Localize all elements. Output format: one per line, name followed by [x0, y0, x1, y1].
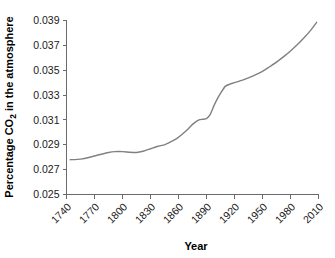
x-axis-tick-label: 1740 [48, 200, 73, 225]
x-axis-tick-label: 2010 [300, 200, 325, 225]
y-axis-tick-label: 0.025 [33, 188, 59, 200]
co2-line-chart: 0.0250.0270.0290.0310.0330.0350.0370.039… [0, 0, 335, 258]
plot-area [70, 22, 316, 159]
x-axis-title: Year [184, 240, 208, 252]
y-axis-tick-label: 0.033 [33, 89, 59, 101]
x-axis-group: 1740177018001830186018901920195019802010 [48, 195, 325, 226]
x-axis-tick-labels: 1740177018001830186018901920195019802010 [48, 200, 325, 225]
y-axis-tick-label: 0.027 [33, 163, 59, 175]
x-axis-tick-label: 1950 [244, 200, 269, 225]
x-axis-tick-label: 1890 [188, 200, 213, 225]
y-axis-group: 0.0250.0270.0290.0310.0330.0350.0370.039 [33, 14, 66, 200]
co2-series-line [70, 22, 316, 159]
x-axis-ticks [67, 195, 319, 199]
y-axis-title: Percentage CO2 in the atmosphere [3, 16, 18, 197]
x-axis-tick-label: 1980 [272, 200, 297, 225]
chart-canvas: 0.0250.0270.0290.0310.0330.0350.0370.039… [0, 0, 335, 258]
y-axis-tick-label: 0.031 [33, 114, 59, 126]
y-axis-tick-label: 0.037 [33, 39, 59, 51]
y-axis-title-pre: Percentage CO [3, 118, 15, 197]
y-axis-tick-label: 0.029 [33, 138, 59, 150]
y-axis-tick-label: 0.039 [33, 14, 59, 26]
y-axis-title-post: in the atmosphere [3, 16, 15, 114]
x-axis-tick-label: 1830 [132, 200, 157, 225]
y-axis-ticks [63, 21, 67, 195]
x-axis-tick-label: 1860 [160, 200, 185, 225]
x-axis-tick-label: 1770 [76, 200, 101, 225]
y-axis-tick-label: 0.035 [33, 64, 59, 76]
y-axis-tick-labels: 0.0250.0270.0290.0310.0330.0350.0370.039 [33, 14, 59, 200]
x-axis-tick-label: 1800 [104, 200, 129, 225]
x-axis-tick-label: 1920 [216, 200, 241, 225]
